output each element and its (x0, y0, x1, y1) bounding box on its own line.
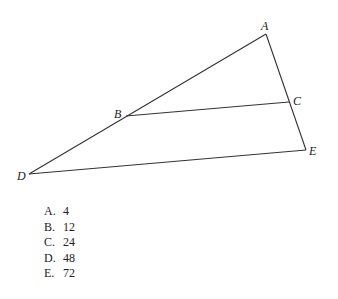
choice-e[interactable]: E.72 (44, 266, 75, 282)
choice-value: 12 (63, 220, 75, 234)
choice-letter: C. (44, 235, 63, 251)
triangle-figure: A B C D E (0, 0, 338, 190)
choice-d[interactable]: D.48 (44, 251, 75, 267)
choice-value: 48 (63, 251, 75, 265)
choice-c[interactable]: C.24 (44, 235, 75, 251)
point-label-B: B (114, 107, 122, 121)
choice-letter: B. (44, 220, 63, 236)
point-label-C: C (293, 94, 302, 108)
choice-value: 24 (63, 235, 75, 249)
choice-a[interactable]: A.4 (44, 204, 75, 220)
choice-letter: D. (44, 251, 63, 267)
choice-value: 4 (63, 204, 69, 218)
choice-letter: E. (44, 266, 63, 282)
segment-BC (126, 102, 289, 116)
point-label-A: A (260, 19, 269, 33)
point-label-D: D (16, 169, 26, 183)
segment-DE (29, 150, 306, 174)
choice-b[interactable]: B.12 (44, 220, 75, 236)
segment-AD (29, 34, 266, 174)
choice-value: 72 (63, 266, 75, 280)
answer-choices: A.4 B.12 C.24 D.48 E.72 (44, 204, 75, 282)
segment-AE (266, 34, 306, 150)
choice-letter: A. (44, 204, 63, 220)
point-label-E: E (308, 144, 317, 158)
